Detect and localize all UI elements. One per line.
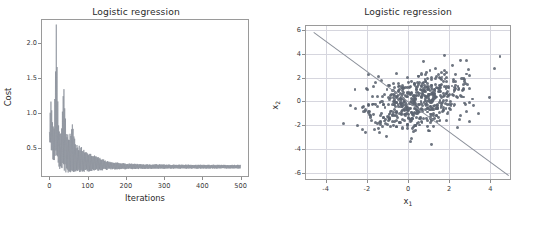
scatter-point [451, 64, 454, 67]
scatter-point [397, 89, 400, 92]
boundary-yticklabel: 6 [283, 26, 301, 34]
scatter-point [368, 110, 371, 113]
scatter-point [413, 94, 416, 97]
scatter-point [381, 95, 384, 98]
boundary-xtick [490, 180, 491, 183]
scatter-point [429, 69, 432, 72]
scatter-point [364, 131, 367, 134]
scatter-point [374, 81, 377, 84]
scatter-point [381, 125, 384, 128]
scatter-point [390, 93, 393, 96]
scatter-point [466, 83, 469, 86]
scatter-point [376, 95, 379, 98]
scatter-point [430, 78, 433, 81]
cost-ytick [38, 43, 41, 44]
scatter-point [386, 88, 389, 91]
scatter-point [387, 103, 390, 106]
gridline-horizontal [305, 149, 511, 150]
boundary-yticklabel: -2 [283, 121, 301, 129]
scatter-point [406, 76, 409, 79]
scatter-point [408, 86, 411, 89]
scatter-point [488, 96, 491, 99]
scatter-point [391, 103, 394, 106]
axis-spine-left [305, 25, 306, 180]
scatter-point [395, 72, 398, 75]
scatter-point [409, 118, 412, 121]
scatter-point [436, 107, 439, 110]
scatter-point [398, 121, 401, 124]
scatter-point [458, 118, 461, 121]
scatter-point [406, 127, 409, 130]
scatter-point [372, 113, 375, 116]
scatter-point [437, 73, 440, 76]
scatter-point [409, 107, 412, 110]
scatter-point [468, 87, 471, 90]
scatter-point [389, 125, 392, 128]
scatter-point [409, 120, 412, 123]
scatter-point [382, 116, 385, 119]
scatter-point [472, 104, 475, 107]
scatter-point [471, 98, 474, 101]
scatter-point [465, 59, 468, 62]
cost-xticklabel: 100 [81, 182, 94, 190]
scatter-point [442, 109, 445, 112]
panel-boundary-title: Logistic regression [272, 6, 544, 17]
scatter-point [459, 94, 462, 97]
boundary-xtick [408, 180, 409, 183]
scatter-point [384, 106, 387, 109]
boundary-ytick [302, 54, 305, 55]
scatter-point [426, 77, 429, 80]
scatter-point [426, 125, 429, 128]
scatter-point [373, 128, 376, 131]
cost-xtick [164, 177, 165, 180]
scatter-point [372, 85, 375, 88]
scatter-point [371, 95, 374, 98]
scatter-point [459, 59, 462, 62]
axis-spine-top [305, 25, 511, 26]
scatter-point [398, 112, 401, 115]
scatter-point [411, 117, 414, 120]
scatter-point [393, 86, 396, 89]
cost-xticklabel: 300 [158, 182, 171, 190]
scatter-point [420, 96, 423, 99]
scatter-point [395, 101, 398, 104]
boundary-yticklabel: -6 [283, 169, 301, 177]
gridline-vertical [326, 25, 327, 180]
scatter-point [450, 104, 453, 107]
axis-spine-right [510, 25, 511, 180]
scatter-point [467, 68, 470, 71]
boundary-ylabel-main: x [270, 105, 280, 110]
boundary-xticklabel: -4 [322, 185, 329, 193]
scatter-point [384, 122, 387, 125]
boundary-axes [305, 25, 511, 180]
scatter-point [361, 128, 364, 131]
scatter-point [464, 103, 467, 106]
scatter-point [397, 82, 400, 85]
scatter-point [459, 114, 462, 117]
boundary-xticklabel: 2 [447, 185, 451, 193]
boundary-ytick [302, 30, 305, 31]
scatter-point [354, 88, 357, 91]
scatter-point [429, 108, 432, 111]
gridline-horizontal [305, 30, 511, 31]
scatter-point [378, 131, 381, 134]
scatter-point [349, 104, 352, 107]
scatter-point [424, 90, 427, 93]
boundary-yticklabel: -4 [283, 145, 301, 153]
scatter-point [465, 110, 468, 113]
cost-yticklabel: 2.0 [17, 39, 37, 47]
panel-cost-title: Logistic regression [0, 6, 272, 17]
gridline-vertical [490, 25, 491, 180]
cost-xtick [241, 177, 242, 180]
scatter-point [431, 91, 434, 94]
boundary-yticklabel: 0 [283, 97, 301, 105]
scatter-point [493, 67, 496, 70]
boundary-xtick [326, 180, 327, 183]
panel-decision-boundary: Logistic regression -4-2024-6-4-20246 x1… [272, 0, 544, 228]
cost-yticklabel: 0.5 [17, 144, 37, 152]
scatter-point [432, 125, 435, 128]
boundary-xtick [367, 180, 368, 183]
boundary-xlabel: x1 [404, 196, 413, 207]
scatter-point [445, 107, 448, 110]
boundary-xticklabel: -2 [364, 185, 371, 193]
